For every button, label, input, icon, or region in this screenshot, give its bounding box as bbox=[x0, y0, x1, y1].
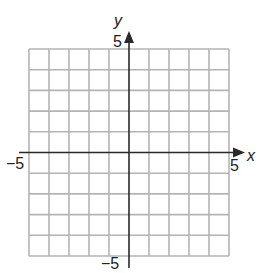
x-axis-max-label: 5 bbox=[230, 158, 239, 174]
y-axis-label: y bbox=[114, 13, 122, 29]
y-axis bbox=[124, 31, 134, 268]
x-axis bbox=[19, 148, 245, 158]
coordinate-plane bbox=[0, 0, 263, 273]
x-axis-min-label: −5 bbox=[6, 156, 24, 172]
x-axis-arrow-icon bbox=[233, 148, 245, 158]
y-axis-max-label: 5 bbox=[113, 34, 122, 50]
y-axis-min-label: −5 bbox=[101, 256, 119, 272]
x-axis-label: x bbox=[247, 148, 255, 164]
y-axis-arrow-icon bbox=[124, 31, 134, 43]
